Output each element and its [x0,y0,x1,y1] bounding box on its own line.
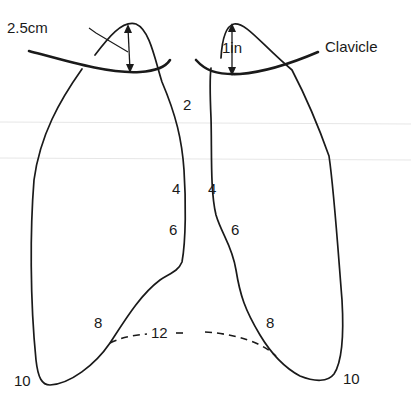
scan-line [0,158,411,160]
left-rib-10-label: 10 [14,372,31,389]
clavicle-label: Clavicle [325,38,378,55]
pleura-rib-12-label: 12 [151,324,168,341]
scan-line [0,122,411,124]
label-leader-line [89,28,128,52]
left-apex-arrow-line [128,28,130,70]
left-apex-measurement: 2.5cm [7,19,48,36]
right-rib-8-label: 8 [266,314,274,331]
right-apex-measurement: 1in [222,39,242,56]
right-lung-outline [210,24,342,380]
left-rib-2-label: 2 [183,96,191,113]
right-clavicle [196,52,318,74]
lung-surface-markings-diagram: 2.5cm 1in Clavicle 2 4 4 6 6 8 8 12 10 1… [0,0,411,402]
right-rib-6-label: 6 [231,221,239,238]
left-rib-8-label: 8 [94,314,102,331]
left-clavicle [29,51,170,72]
left-rib-4-label: 4 [172,180,180,197]
right-rib-4-label: 4 [208,180,216,197]
left-rib-6-label: 6 [169,221,177,238]
right-rib-10-label: 10 [343,370,360,387]
